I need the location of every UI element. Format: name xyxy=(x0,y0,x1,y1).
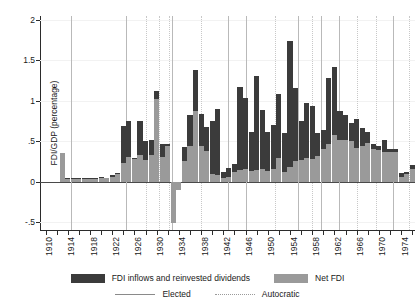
bar-group xyxy=(104,16,109,230)
x-tick-label: 1910 xyxy=(44,237,54,256)
x-tick-mark xyxy=(168,231,169,235)
legend-series-row: FDI inflows and reinvested dividends Net… xyxy=(0,273,415,283)
x-tick-label: 1930 xyxy=(155,237,165,256)
bar-segment-net xyxy=(387,152,392,181)
bar-group xyxy=(354,16,359,230)
bar-group xyxy=(154,16,159,230)
x-tick-mark xyxy=(112,231,113,235)
x-tick-mark xyxy=(268,231,269,235)
bar-group xyxy=(249,16,254,230)
bar-segment-net xyxy=(160,157,165,181)
bar-segment-net xyxy=(399,177,404,182)
bar-segment-net xyxy=(76,179,81,181)
legend-label-net-fdi: Net FDI xyxy=(315,273,344,283)
bar-group xyxy=(99,16,104,230)
bar-group xyxy=(332,16,337,230)
x-axis: 1910191419181922192619301934193819421946… xyxy=(40,231,415,276)
bar-group xyxy=(271,16,276,230)
bar-segment-net xyxy=(232,172,237,182)
bar-group xyxy=(60,16,65,230)
bar-segment-net xyxy=(60,153,65,181)
x-tick-label: 1918 xyxy=(89,237,99,256)
bar-segment-net xyxy=(121,163,126,182)
bar-group xyxy=(237,16,242,230)
x-tick-mark xyxy=(68,231,69,235)
x-tick-mark xyxy=(334,231,335,235)
bar-group xyxy=(243,16,248,230)
bar-group xyxy=(176,16,181,230)
x-tick-mark xyxy=(323,231,324,235)
bar-segment-net xyxy=(132,159,137,182)
bar-segment-net xyxy=(360,146,365,182)
bar-group xyxy=(376,16,381,230)
bar-group xyxy=(399,16,404,230)
chart-root: 21.51.50-.5 FDI/GDP (percentage) 1910191… xyxy=(0,0,415,307)
bar-segment-net xyxy=(299,160,304,182)
x-tick-mark xyxy=(179,231,180,235)
bar-segment-net xyxy=(210,174,215,181)
x-tick-mark xyxy=(212,231,213,235)
bar-segment-net xyxy=(349,141,354,181)
legend-swatch-gray-icon xyxy=(274,274,308,283)
bar-segment-net xyxy=(310,159,315,182)
bar-segment-total xyxy=(237,87,242,181)
legend-label-autocratic: Autocratic xyxy=(262,289,300,299)
bar-group xyxy=(410,16,415,230)
bar-group xyxy=(260,16,265,230)
x-tick-mark xyxy=(101,231,102,235)
bar-segment-net xyxy=(226,177,231,182)
x-tick-mark xyxy=(279,231,280,235)
bar-segment-net xyxy=(193,111,198,181)
x-tick-mark xyxy=(123,231,124,235)
bar-segment-net xyxy=(243,169,248,182)
bar-group xyxy=(82,16,87,230)
bar-segment-net xyxy=(337,140,342,182)
bar-segment-net xyxy=(371,149,376,181)
legend-swatch-dark-icon xyxy=(71,274,105,283)
bar-group xyxy=(254,16,259,230)
x-tick-mark xyxy=(246,231,247,235)
bar-segment-net xyxy=(99,178,104,181)
bar-group xyxy=(326,16,331,230)
bar-group xyxy=(315,16,320,230)
bar-group xyxy=(160,16,165,230)
bar-group xyxy=(232,16,237,230)
bar-group xyxy=(304,16,309,230)
x-tick-mark xyxy=(290,231,291,235)
x-tick-mark xyxy=(146,231,147,235)
bar-group xyxy=(149,16,154,230)
bar-segment-net xyxy=(110,177,115,182)
bar-segment-net xyxy=(260,169,265,182)
bar-segment-net xyxy=(143,160,148,182)
bar-segment-net xyxy=(182,161,187,182)
bar-segment-net xyxy=(82,179,87,181)
x-tick-mark xyxy=(223,231,224,235)
bar-segment-net xyxy=(171,182,176,223)
bar-segment-net xyxy=(187,146,192,182)
x-tick-mark xyxy=(46,231,47,235)
bar-segment-net xyxy=(87,179,92,181)
bar-segment-net xyxy=(65,179,70,181)
bar-group xyxy=(337,16,342,230)
x-tick-label: 1950 xyxy=(266,237,276,256)
bar-segment-total xyxy=(210,121,215,182)
x-tick-mark xyxy=(57,231,58,235)
bar-segment-net xyxy=(93,179,98,181)
bar-segment-net xyxy=(104,178,109,181)
bar-segment-total xyxy=(254,76,259,182)
bar-segment-net xyxy=(343,140,348,182)
bar-group xyxy=(265,16,270,230)
bar-group xyxy=(276,16,281,230)
bar-group xyxy=(293,16,298,230)
bar-group xyxy=(132,16,137,230)
x-tick-mark xyxy=(79,231,80,235)
x-tick-mark xyxy=(368,231,369,235)
x-tick-mark xyxy=(134,231,135,235)
x-tick-label: 1926 xyxy=(133,237,143,256)
bar-segment-total xyxy=(287,41,292,182)
x-tick-mark xyxy=(390,231,391,235)
x-tick-label: 1970 xyxy=(377,237,387,256)
x-tick-mark xyxy=(379,231,380,235)
chart-legend: FDI inflows and reinvested dividends Net… xyxy=(0,272,415,307)
bar-segment-net xyxy=(249,171,254,181)
